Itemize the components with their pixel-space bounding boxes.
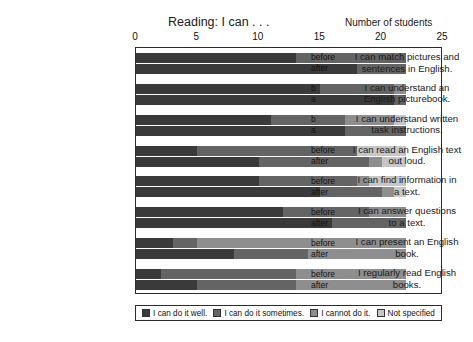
category-label-line: a text. [341,186,473,198]
chart-container: Reading: I can . . . Number of students … [0,0,473,342]
bar-segment[interactable] [136,187,320,197]
category-label-line: out loud. [341,155,473,167]
category-label: I can present an Englishbook. [341,236,473,259]
bar-segment[interactable] [161,269,296,279]
series-label-before: before [311,269,335,279]
chart-legend: I can do it well.I can do it sometimes.I… [135,305,442,321]
bar-segment[interactable] [234,249,308,259]
x-tick-label-10: 10 [252,31,263,42]
category-label: I can match pictures andsentences in Eng… [341,51,473,74]
bar-segment[interactable] [136,280,197,290]
legend-label: Not specified [388,309,435,318]
bar-segment[interactable] [197,280,295,290]
category-label-line: I can match pictures and [341,51,473,63]
series-label-a: a [311,94,316,104]
bar-segment[interactable] [136,269,161,279]
bar-segment[interactable] [136,249,234,259]
bar-segment[interactable] [136,146,197,156]
series-label-before: before [311,145,335,155]
category-label-line: I regularly read English [341,267,473,279]
legend-label: I can do it well. [153,309,207,318]
bar-segment[interactable] [136,53,296,63]
bar-segment[interactable] [136,157,259,167]
category-label: I regularly read Englishbooks. [341,267,473,290]
series-label-b: b [311,114,316,124]
category-label-line: book. [341,248,473,260]
bar-segment[interactable] [136,176,259,186]
series-label-after: after [311,280,328,290]
series-label-after: after [311,218,328,228]
legend-swatch-icon [377,309,385,317]
x-tick-label-5: 5 [194,31,200,42]
series-label-after: after [311,187,328,197]
series-label-a: a [311,125,316,135]
series-label-after: after [311,63,328,73]
bar-segment[interactable] [173,238,198,248]
bar-segment[interactable] [136,115,271,125]
series-label-after: after [311,156,328,166]
category-label-line: to a text. [341,217,473,229]
legend-item[interactable]: I cannot do it. [310,309,370,318]
category-label-line: English picturebook. [341,93,473,105]
chart-title: Reading: I can . . . [168,15,269,29]
series-label-b: b [311,83,316,93]
x-axis-caption: Number of students [345,17,432,28]
x-tick-label-0: 0 [132,31,138,42]
category-label-line: I can read an English text [341,144,473,156]
legend-swatch-icon [310,309,318,317]
category-label-line: I can find information in [341,174,473,186]
series-label-before: before [311,207,335,217]
category-label-line: I can understand written [341,113,473,125]
bar-segment[interactable] [136,84,320,94]
bar-segment[interactable] [136,218,332,228]
series-label-before: before [311,52,335,62]
category-label-line: I can answer questions [341,205,473,217]
series-label-after: after [311,249,328,259]
legend-item[interactable]: Not specified [377,309,435,318]
legend-swatch-icon [213,309,221,317]
bar-segment[interactable] [136,207,283,217]
category-label-line: I can understand an [341,82,473,94]
category-label: I can find information ina text. [341,174,473,197]
legend-item[interactable]: I can do it sometimes. [213,309,304,318]
category-label-line: task instructions. [341,124,473,136]
category-label: I can read an English textout loud. [341,144,473,167]
category-label-line: I can present an English [341,236,473,248]
series-label-before: before [311,176,335,186]
legend-label: I can do it sometimes. [224,309,304,318]
x-tick-label-15: 15 [314,31,325,42]
legend-label: I cannot do it. [321,309,370,318]
series-label-before: before [311,238,335,248]
category-label-line: sentences in English. [341,63,473,75]
x-tick-label-20: 20 [375,31,386,42]
category-label: I can understand writtentask instruction… [341,113,473,136]
category-label-line: books. [341,279,473,291]
legend-item[interactable]: I can do it well. [142,309,207,318]
bar-segment[interactable] [271,115,345,125]
bar-segment[interactable] [136,238,173,248]
category-label: I can answer questionsto a text. [341,205,473,228]
legend-swatch-icon [142,309,150,317]
x-tick-label-25: 25 [436,31,447,42]
category-label: I can understand anEnglish picturebook. [341,82,473,105]
